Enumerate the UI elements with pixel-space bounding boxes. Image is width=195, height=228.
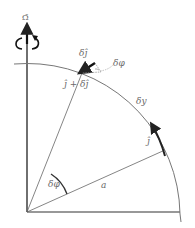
delta-phi-top-label: δφ — [113, 59, 125, 68]
radius-a-label: a — [101, 181, 106, 190]
omega-label: Ω̄ — [22, 14, 29, 22]
delta-phi-angle-label: δφ — [48, 180, 60, 189]
j-vector-arrow-icon — [152, 125, 165, 156]
j-label: ĵ — [147, 137, 150, 146]
delta-j-label: δĵ — [79, 49, 87, 58]
delta-phi-small-arc — [95, 69, 99, 70]
meridian-arc — [14, 64, 181, 223]
delta-y-label: δy — [136, 97, 147, 106]
delta-phi-pointer — [100, 65, 113, 71]
j-plus-delta-j-label: ĵ + δĵ — [64, 80, 88, 89]
rotating-sphere-diagram — [0, 0, 195, 228]
delta-j-vector-arrow-icon — [81, 63, 95, 72]
